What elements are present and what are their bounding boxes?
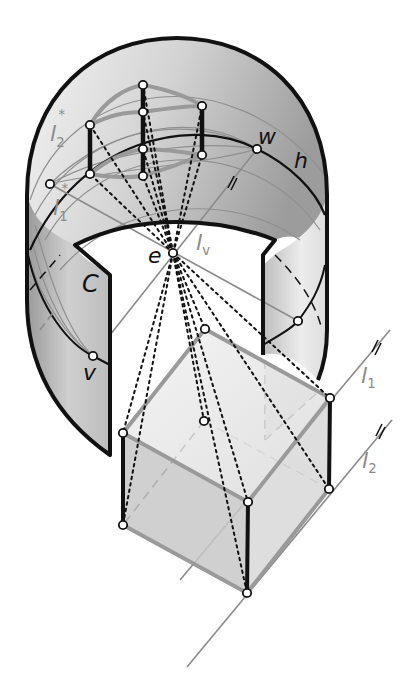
label-e: e	[148, 245, 162, 267]
label-v: v	[83, 362, 96, 384]
label-l1: l1	[361, 365, 376, 391]
point-v	[89, 352, 97, 360]
label-l2: l2	[362, 450, 377, 476]
point-e	[169, 249, 177, 257]
label-l2-star: l2*	[50, 122, 71, 149]
label-C: C	[82, 272, 99, 296]
label-h: h	[294, 150, 308, 172]
label-l1-star: l1*	[53, 196, 74, 223]
cylinder-interior	[27, 38, 327, 270]
label-lv: lv	[196, 232, 210, 258]
cylinder-projection-diagram: l2* l1* w h e lv C v l1 l2	[0, 0, 417, 690]
diagram-canvas	[0, 0, 417, 690]
label-w: w	[258, 126, 276, 148]
